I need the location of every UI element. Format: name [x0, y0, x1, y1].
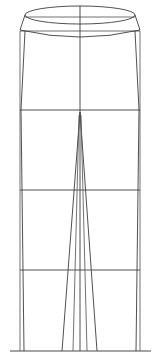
left-hip-seam: [21, 31, 25, 110]
left-inner-leg-edge: [73, 115, 79, 351]
right-inner-leg-edge: [81, 115, 87, 351]
waistband-left-edge: [20, 15, 25, 30]
right-inseam: [80, 112, 97, 351]
left-side-seam-lower: [21, 110, 24, 351]
right-side-seam-lower: [136, 110, 139, 351]
right-hip-seam: [135, 31, 139, 110]
garment-technical-drawing: [0, 0, 161, 363]
waistband-right-edge: [135, 15, 140, 30]
left-inseam: [62, 112, 80, 351]
trousers-line-drawing: [0, 0, 161, 363]
